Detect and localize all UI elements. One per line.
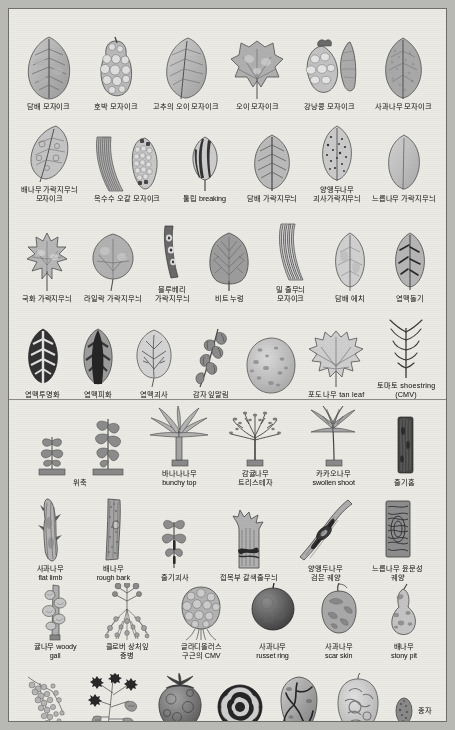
pear-pit-art xyxy=(383,583,425,641)
caption: 바나나나무 bunchy top xyxy=(162,470,197,487)
bark-zonate-art xyxy=(381,497,415,563)
leaf-pale-art xyxy=(329,231,371,293)
caption: 오이 모자이크 xyxy=(236,103,279,111)
leaf-mottled-art xyxy=(379,35,427,101)
caption: 사과나무 scar skin xyxy=(325,643,353,660)
row-8-fruit: 포도나무의 TomRSV xyxy=(9,660,446,722)
caption: 강낭콩 모자이크 xyxy=(304,103,354,111)
potato-tuber-spot xyxy=(241,335,301,399)
root-tumor-art xyxy=(100,583,154,641)
cacao-art xyxy=(305,406,363,468)
caption: 귤나무 woody gall xyxy=(34,643,77,660)
pear-stony-pit: 배나무 stony pit xyxy=(374,583,434,660)
grape-tomrsv: 포도나무의 TomRSV xyxy=(19,673,79,722)
caption: 호박 모자이크 xyxy=(94,103,137,111)
elm-zonate-canker: 느릅나무 윤문성 궤양 xyxy=(360,497,436,582)
gall-stem-art xyxy=(37,583,73,641)
caption: 감귤나무 트리스테자 xyxy=(238,470,273,487)
tuber-spotted-art xyxy=(242,335,300,397)
pod-pair-art xyxy=(298,35,360,101)
caption: 엽맥돌기 xyxy=(396,295,424,303)
apple-russet-ring: 사과나무 russet ring xyxy=(242,583,304,660)
seed: 종자 xyxy=(389,696,436,722)
lilac-ringspot: 라일락 가락지무늬 xyxy=(79,231,147,303)
citrus-tree-art xyxy=(223,406,287,468)
caption: 고추의 오이 모자이크 xyxy=(153,103,219,111)
elm-ringspot: 느릅나무 가락지무늬 xyxy=(368,133,440,203)
banana-bunchy-top: 바나나나무 bunchy top xyxy=(142,406,216,487)
pepper-cucumber-mosaic: 고추의 오이 모자이크 xyxy=(150,35,223,111)
caption: 양앵두나무 괴사가락지무늬 xyxy=(313,186,361,203)
row-2-ringspot: 배나무 가락지무늬 모자이크 xyxy=(9,111,446,203)
pear-rough-bark: 배나무 rough bark xyxy=(82,497,144,582)
tulip-art xyxy=(183,133,227,193)
blackberry-art xyxy=(85,673,143,722)
caption: 엽맥괴사 xyxy=(140,391,168,399)
row-1-mosaic: 담배 모자이크 호박 xyxy=(9,9,446,111)
row-7-gall: 귤나무 woody gall xyxy=(9,582,446,660)
apple-scar-art xyxy=(316,583,362,641)
apple-dark-art xyxy=(249,583,297,641)
vein-enation: 엽맥돌기 xyxy=(380,231,440,303)
pear-ringspot-mosaic: 배나무 가락지무늬 모자이크 xyxy=(15,124,84,203)
caption: 카카오나무 swollen shoot xyxy=(313,470,355,487)
tomato-whole-art xyxy=(155,673,205,722)
apple-flat-limb: 사과나무 flat limb xyxy=(19,497,81,582)
caption: 토마토 shoestring (CMV) xyxy=(377,382,436,399)
caption: 담배 가락지무늬 xyxy=(247,195,297,203)
caption: 글라디올러스 구근의 CMV xyxy=(181,643,222,660)
tobacco-etch: 담배 에치 xyxy=(320,231,380,303)
leaf-spotted-art xyxy=(26,124,72,184)
bean-mosaic: 강낭콩 모자이크 xyxy=(292,35,367,111)
seedling-necr-art xyxy=(154,506,196,572)
chrysanthemum-ringspot: 국화 가락지무늬 xyxy=(15,231,79,303)
beet-yellows: 비트 누렁 xyxy=(197,231,261,303)
caption: 엽맥투명화 xyxy=(25,391,60,399)
tomato-spotted-wilt: 토마토 점무늬시들음 xyxy=(150,673,210,722)
plant-stem-section: 위축 xyxy=(9,399,446,582)
grape-cluster-art xyxy=(22,673,76,722)
fruit-bumpy-art xyxy=(93,35,139,101)
apple-scar-skin: 사과나무 scar skin xyxy=(308,583,370,660)
symptom-plate: 담배 모자이크 호박 xyxy=(8,8,447,722)
corm-art xyxy=(175,583,227,641)
caption: 줄기괴사 xyxy=(161,574,189,582)
vein-banding: 엽맥피화 xyxy=(70,327,125,399)
branch-canker-art xyxy=(298,497,354,563)
caption: 밀 줄무늬 모자이크 xyxy=(276,286,306,303)
gall-fruit-section: 귤나무 woody gall xyxy=(9,582,446,722)
maize-dwarf-mosaic: 옥수수 오갈 모자이크 xyxy=(84,133,172,203)
apricot-ppv: 살구나무의 PPV xyxy=(328,673,390,722)
leaf-grape-art xyxy=(307,327,365,389)
tomato-shoestring: 토마토 shoestring (CMV) xyxy=(372,318,440,399)
potato-crack-art xyxy=(275,673,323,722)
caption: 느릅나무 윤문성 궤양 xyxy=(372,565,422,582)
caption: 라일락 가락지무늬 xyxy=(84,295,141,303)
caption: 클로버 상처잎 증병 xyxy=(106,643,149,660)
stem-necrosis: 줄기괴사 xyxy=(145,506,205,582)
citrus-woody-gall: 귤나무 woody gall xyxy=(21,583,89,660)
grape-tan-leaf: 포도나무 tan leaf xyxy=(301,327,373,399)
stunting: 위축 xyxy=(20,415,140,487)
cherry-black-canker: 양앵두나무 검은 궤양 xyxy=(293,497,359,582)
shoestring-art xyxy=(382,318,430,380)
banana-art xyxy=(147,406,211,468)
clover-wound-tumor: 클로버 상처잎 증병 xyxy=(93,583,161,660)
leaf-symptom-section: 담배 모자이크 호박 xyxy=(9,9,446,399)
cucumber-mosaic: 오이 모자이크 xyxy=(223,35,292,111)
caption: 사과나무 flat limb xyxy=(37,565,65,582)
leaf-enation-art xyxy=(389,231,431,293)
row-4-vein: 엽맥투명화 엽맥피화 xyxy=(9,303,446,399)
caption: 옥수수 오갈 모자이크 xyxy=(94,195,160,203)
stem-ring-art xyxy=(159,222,185,284)
caption: 배나무 rough bark xyxy=(97,565,130,582)
gladiolus-corm-cmv: 글라디올러스 구근의 CMV xyxy=(165,583,237,660)
grass-blades-art xyxy=(271,222,311,284)
leaf-smooth-art xyxy=(161,35,211,101)
apple-mosaic: 사과나무 모자이크 xyxy=(367,35,440,111)
caption: 툴립 breaking xyxy=(183,195,225,203)
blueberry-ringspot: 블루베리 가락지무늬 xyxy=(147,222,197,303)
caption: 담배 모자이크 xyxy=(27,103,70,111)
blackberry-sterility: 블랙베리 sterility (불임성) xyxy=(79,673,150,722)
caption: 감자 잎말림 xyxy=(193,391,229,399)
